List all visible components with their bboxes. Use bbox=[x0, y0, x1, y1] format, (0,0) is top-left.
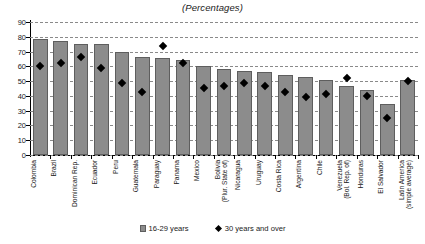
bar-group[interactable] bbox=[91, 22, 111, 155]
x-axis-label: Guatemala bbox=[132, 160, 152, 192]
bar[interactable] bbox=[94, 44, 109, 155]
x-axis-tick-mark bbox=[255, 155, 256, 159]
y-axis-tick-label: 50 bbox=[18, 77, 26, 86]
bar-group[interactable] bbox=[71, 22, 91, 155]
bar[interactable] bbox=[339, 86, 354, 155]
bar-group[interactable] bbox=[255, 22, 275, 155]
y-axis-tick-label: 80 bbox=[18, 32, 26, 41]
x-axis-label-line1: Nicaragua bbox=[234, 160, 241, 190]
x-axis-label: Uruguay bbox=[255, 160, 275, 185]
x-axis-label-line1: Uruguay bbox=[255, 160, 262, 185]
bar-group[interactable] bbox=[50, 22, 70, 155]
y-axis-tick-label: 30 bbox=[18, 106, 26, 115]
legend-label-bar: 16-29 years bbox=[149, 224, 189, 233]
bar-group[interactable] bbox=[316, 22, 336, 155]
bar[interactable] bbox=[196, 66, 211, 155]
x-axis-label-line1: Dominican Rep. bbox=[71, 160, 78, 207]
y-axis-tick-label: 70 bbox=[18, 47, 26, 56]
x-axis-label-line2: (Plur. State of) bbox=[221, 160, 228, 202]
bar-group[interactable] bbox=[275, 22, 295, 155]
x-axis-label: Latin America(simple average) bbox=[398, 160, 418, 209]
x-axis-tick-mark bbox=[234, 155, 235, 159]
bar[interactable] bbox=[155, 58, 170, 155]
bar-series-layer bbox=[30, 22, 418, 155]
data-point-marker[interactable] bbox=[158, 41, 166, 49]
x-axis-tick-mark bbox=[132, 155, 133, 159]
x-axis-label: Argentina bbox=[295, 160, 315, 188]
x-axis-tick-mark bbox=[112, 155, 113, 159]
gridline bbox=[30, 155, 418, 156]
bar-group[interactable] bbox=[132, 22, 152, 155]
x-axis-tick-mark bbox=[153, 155, 154, 159]
chart-title: (Percentages) bbox=[0, 2, 425, 13]
x-axis-label: Peru bbox=[112, 160, 132, 174]
x-axis-label: Honduras bbox=[357, 160, 377, 189]
bar-group[interactable] bbox=[153, 22, 173, 155]
x-axis-label-line1: Chile bbox=[316, 160, 323, 175]
legend-label-marker: 30 years and over bbox=[225, 224, 286, 233]
chart-root: (Percentages) 0102030405060708090 Colomb… bbox=[0, 0, 425, 244]
bar[interactable] bbox=[115, 52, 130, 155]
bar-group[interactable] bbox=[398, 22, 418, 155]
bar[interactable] bbox=[400, 80, 415, 155]
x-axis-label: El Salvador bbox=[377, 160, 397, 194]
bar[interactable] bbox=[135, 57, 150, 155]
x-axis-label-line1: Paraguay bbox=[153, 160, 160, 188]
x-axis-tick-mark bbox=[193, 155, 194, 159]
x-axis-tick-mark bbox=[418, 155, 419, 159]
x-axis-label-line1: Mexico bbox=[193, 160, 200, 181]
x-axis-tick-mark bbox=[295, 155, 296, 159]
x-axis-label: Ecuador bbox=[91, 160, 111, 185]
legend-item-bar[interactable]: 16-29 years bbox=[140, 224, 189, 233]
x-axis-label-line1: Peru bbox=[112, 160, 119, 174]
bar-group[interactable] bbox=[173, 22, 193, 155]
x-axis-label-line1: Panama bbox=[173, 160, 180, 185]
x-axis-labels: ColombiaBrazilDominican Rep.EcuadorPeruG… bbox=[30, 160, 418, 232]
x-axis-tick-mark bbox=[275, 155, 276, 159]
x-axis-label-line1: Ecuador bbox=[91, 160, 98, 185]
diamond-swatch-icon bbox=[215, 225, 222, 232]
x-axis-label-line2: (simple average) bbox=[405, 160, 412, 209]
bar[interactable] bbox=[33, 39, 48, 155]
x-axis-tick-mark bbox=[91, 155, 92, 159]
bar-group[interactable] bbox=[234, 22, 254, 155]
legend-item-marker[interactable]: 30 years and over bbox=[215, 224, 286, 233]
x-axis-label-line1: Guatemala bbox=[132, 160, 139, 192]
y-axis-tick-label: 40 bbox=[18, 91, 26, 100]
bar-group[interactable] bbox=[336, 22, 356, 155]
plot-area: 0102030405060708090 bbox=[30, 22, 418, 155]
x-axis-label-line1: Argentina bbox=[295, 160, 302, 188]
x-axis-label-line1: Venezuela bbox=[336, 160, 343, 191]
bar-group[interactable] bbox=[214, 22, 234, 155]
bar-group[interactable] bbox=[112, 22, 132, 155]
bar-group[interactable] bbox=[30, 22, 50, 155]
y-axis-tick-mark bbox=[26, 155, 30, 156]
bar-group[interactable] bbox=[295, 22, 315, 155]
bar[interactable] bbox=[298, 77, 313, 155]
x-axis-tick-mark bbox=[50, 155, 51, 159]
x-axis-tick-mark bbox=[336, 155, 337, 159]
bar-group[interactable] bbox=[357, 22, 377, 155]
bar-swatch-icon bbox=[140, 225, 146, 232]
x-axis-label: Nicaragua bbox=[234, 160, 254, 190]
x-axis-tick-mark bbox=[71, 155, 72, 159]
x-axis-label-line1: Brazil bbox=[50, 160, 57, 177]
x-axis-label-line1: Latin America bbox=[398, 160, 405, 200]
bar[interactable] bbox=[380, 104, 395, 155]
bar[interactable] bbox=[176, 60, 191, 155]
y-axis-tick-label: 10 bbox=[18, 136, 26, 145]
y-axis-tick-label: 60 bbox=[18, 62, 26, 71]
x-axis-label: Colombia bbox=[30, 160, 50, 188]
x-axis-tick-mark bbox=[398, 155, 399, 159]
bar-group[interactable] bbox=[377, 22, 397, 155]
bar-group[interactable] bbox=[193, 22, 213, 155]
x-axis-label: Panama bbox=[173, 160, 193, 185]
x-axis-label-line1: Honduras bbox=[357, 160, 364, 189]
x-axis-label: Mexico bbox=[193, 160, 213, 181]
x-axis-tick-mark bbox=[316, 155, 317, 159]
data-point-marker[interactable] bbox=[342, 74, 350, 82]
x-axis-tick-mark bbox=[173, 155, 174, 159]
x-axis-tick-mark bbox=[357, 155, 358, 159]
x-axis-label-line1: Costa Rica bbox=[275, 160, 282, 192]
x-axis-label: Chile bbox=[316, 160, 336, 175]
